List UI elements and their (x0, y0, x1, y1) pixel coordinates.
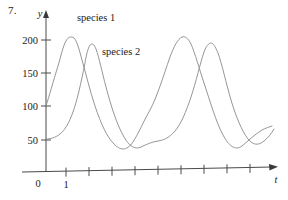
y-tick-label-150: 150 (22, 68, 38, 79)
species-1-label: species 1 (77, 12, 115, 23)
x-axis-label: t (275, 174, 279, 185)
population-graph: 200 150 100 50 0 1 y t species 1 species… (0, 0, 288, 200)
x-axis-line (22, 167, 272, 172)
species-2-curve (46, 43, 274, 148)
species-2-label: species 2 (102, 46, 140, 57)
y-tick-label-50: 50 (28, 135, 39, 146)
figure-container: 7. 200 150 100 50 (0, 0, 288, 200)
y-axis-label: y (37, 8, 43, 19)
y-tick-label-100: 100 (22, 101, 38, 112)
x-tick-label-0: 0 (35, 178, 40, 189)
x-tick-label-1: 1 (63, 179, 68, 190)
y-tick-label-200: 200 (22, 35, 38, 46)
species-1-curve (46, 37, 272, 149)
x-axis-arrowhead (269, 164, 278, 171)
y-axis-arrowhead (43, 10, 49, 18)
